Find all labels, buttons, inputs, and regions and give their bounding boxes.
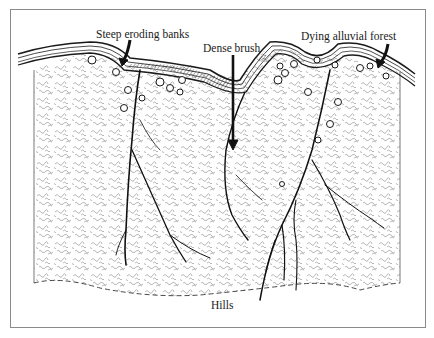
label-hills: Hills bbox=[211, 300, 233, 312]
label-dying-alluvial-forest: Dying alluvial forest bbox=[301, 31, 396, 43]
label-dense-brush: Dense brush bbox=[203, 43, 260, 55]
label-steep-eroding-banks: Steep eroding banks bbox=[96, 29, 189, 41]
